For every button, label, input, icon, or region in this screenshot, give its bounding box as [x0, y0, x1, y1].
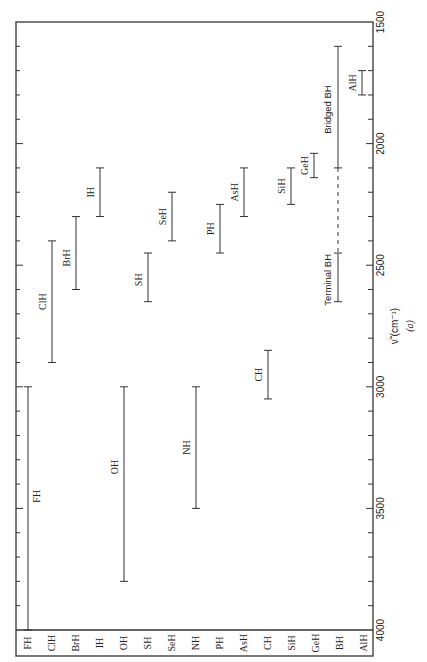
bar-label: AlH: [347, 74, 358, 91]
bar-label: NH: [181, 440, 192, 454]
range-bar-alh: AlH: [347, 71, 366, 95]
bar-label: IH: [85, 187, 96, 198]
chart-frame: [16, 22, 373, 656]
bar-label: BrH: [61, 249, 72, 266]
category-label: ClH: [46, 635, 57, 652]
bar-label: FH: [31, 490, 42, 503]
range-bar-ph: PH: [205, 204, 224, 253]
plot-border: [16, 22, 373, 656]
category-label: OH: [118, 636, 129, 650]
bar-label: CH: [253, 368, 264, 382]
axis-tick-labels: 150020002500300035004000: [375, 10, 386, 641]
bar-label: SiH: [276, 178, 287, 194]
category-label: SeH: [166, 634, 177, 651]
range-bar-nh: NH: [181, 387, 200, 509]
range-bar-ash: AsH: [229, 168, 248, 217]
range-bar-oh: OH: [109, 387, 128, 582]
category-label: AsH: [238, 634, 249, 652]
bar-label: Terminal BH: [322, 254, 333, 306]
panel-label: (a): [404, 320, 416, 332]
category-label: NH: [190, 636, 201, 650]
axis-title: ν̃ (cm⁻¹)(a): [389, 308, 416, 344]
axis-tick-label: 3000: [375, 375, 386, 398]
bar-label: GeH: [299, 156, 310, 175]
range-bar-seh: SeH: [157, 192, 176, 241]
category-label: CH: [262, 636, 273, 650]
axis-tick-label: 1500: [375, 10, 386, 33]
range-bar-sh: SH: [133, 253, 152, 302]
range-bar-clh: ClH: [37, 241, 56, 363]
category-label: SH: [142, 637, 153, 650]
bar-label: Bridged BH: [322, 85, 333, 134]
category-label: FH: [22, 637, 33, 650]
category-label: IH: [94, 638, 105, 649]
range-chart: 150020002500300035004000 ν̃ (cm⁻¹)(a) FH…: [0, 0, 427, 662]
category-label: AlH: [358, 634, 369, 651]
category-label: SiH: [286, 635, 297, 651]
axis-ticks: [16, 46, 373, 605]
range-bar-terminal-bh: Terminal BH: [322, 253, 342, 306]
range-bar-sih: SiH: [276, 168, 295, 204]
range-bar-brh: BrH: [61, 217, 80, 290]
bar-label: AsH: [229, 183, 240, 201]
range-bar-fh: FH: [24, 387, 42, 630]
range-bar-bridged-bh: Bridged BH: [322, 46, 342, 168]
bar-label: PH: [205, 222, 216, 235]
axis-tick-label: 3500: [375, 497, 386, 520]
axis-tick-label: 2000: [375, 132, 386, 155]
range-bars: FHClHBrHIHOHSHSeHNHPHAsHCHSiHGeHTerminal…: [24, 46, 366, 630]
category-label: BrH: [70, 634, 81, 651]
bar-label: SH: [133, 273, 144, 286]
category-label: BH: [334, 636, 345, 650]
range-bar-ih: IH: [85, 168, 104, 217]
range-bar-ch: CH: [253, 350, 272, 399]
bar-label: OH: [109, 460, 120, 474]
category-label: GeH: [310, 634, 321, 653]
range-bar-geh: GeH: [299, 153, 318, 177]
axis-title-text: ν̃ (cm⁻¹): [389, 308, 400, 344]
axis-tick-label: 2500: [375, 254, 386, 277]
category-label: PH: [214, 637, 225, 650]
bar-label: ClH: [37, 293, 48, 310]
axis-tick-label: 4000: [375, 618, 386, 641]
category-labels: FHClHBrHIHOHSHSeHNHPHAsHCHSiHGeHBHAlH: [22, 634, 369, 653]
bar-label: SeH: [157, 208, 168, 225]
